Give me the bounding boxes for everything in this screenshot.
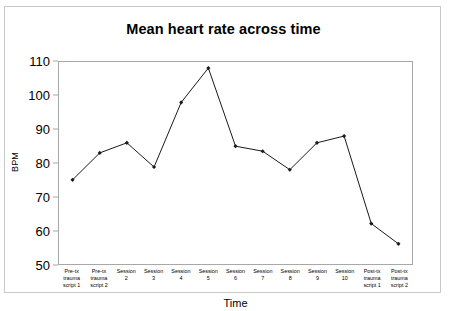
y-tick-label: 70 bbox=[36, 190, 50, 205]
x-tick-label: Session 7 bbox=[249, 267, 276, 299]
plot-area bbox=[58, 61, 413, 265]
chart-title: Mean heart rate across time bbox=[5, 21, 442, 37]
x-tick-label: Session 3 bbox=[140, 267, 167, 299]
data-point-marker bbox=[342, 134, 346, 138]
x-tick-label: Session 4 bbox=[167, 267, 194, 299]
y-tick-label: 90 bbox=[36, 122, 50, 137]
y-tick-label: 80 bbox=[36, 156, 50, 171]
x-tick-label: Session 9 bbox=[304, 267, 331, 299]
x-tick-label: Session 5 bbox=[195, 267, 222, 299]
x-axis-tick-labels: Pre-tx trauma script 1Pre-tx trauma scri… bbox=[58, 267, 413, 299]
y-axis-ticks: 1101009080706050 bbox=[5, 61, 58, 265]
y-tick-label: 50 bbox=[36, 258, 50, 273]
x-tick-label: Post-tx trauma script 2 bbox=[386, 267, 413, 299]
x-tick-label: Pre-tx trauma script 1 bbox=[58, 267, 85, 299]
x-tick-label: Pre-tx trauma script 2 bbox=[85, 267, 112, 299]
y-tick-label: 110 bbox=[29, 54, 50, 69]
y-tick-label: 100 bbox=[28, 88, 50, 103]
x-tick-label: Session 8 bbox=[277, 267, 304, 299]
data-point-marker bbox=[233, 144, 237, 148]
x-tick-label: Post-tx trauma script 1 bbox=[358, 267, 385, 299]
figure-frame: Mean heart rate across time BPM 11010090… bbox=[4, 6, 441, 293]
x-tick-label: Session 6 bbox=[222, 267, 249, 299]
y-tick-label: 60 bbox=[36, 224, 50, 239]
x-tick-label: Session 10 bbox=[331, 267, 358, 299]
line-series bbox=[59, 62, 412, 264]
caption-sliver bbox=[6, 303, 306, 311]
series-line bbox=[73, 68, 399, 244]
x-tick-label: Session 2 bbox=[113, 267, 140, 299]
